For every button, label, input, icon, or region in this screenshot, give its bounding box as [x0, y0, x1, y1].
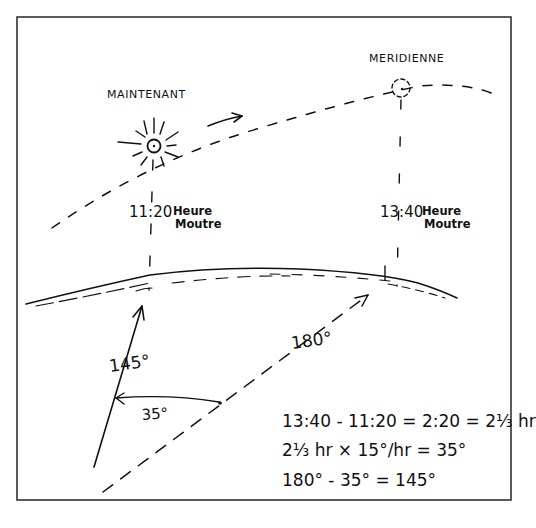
bearing-180-arrow — [103, 295, 368, 492]
sun-now-icon — [118, 118, 178, 166]
calculations-block: 13:40 - 11:20 = 2:20 = 2⅓ hr 2⅓ hr × 15°… — [282, 411, 536, 490]
calc-line-3: 180° - 35° = 145° — [282, 470, 436, 490]
bearing-145-arrow — [94, 306, 144, 467]
time-now-moutre: Moutre — [175, 217, 222, 231]
time-noon: 13:40 — [380, 203, 423, 221]
sun-bearing-diagram: MAINTENANT MERIDIENNE 11:20 Heure Moutre… — [0, 0, 536, 528]
angle-35-arc — [116, 393, 222, 405]
time-noon-moutre: Moutre — [424, 217, 471, 231]
label-35: 35° — [141, 404, 169, 424]
time-label-now: 11:20 Heure Moutre — [129, 203, 222, 231]
horizon-icon — [26, 266, 457, 306]
noon-vertical-dashed — [397, 100, 401, 286]
label-180: 180° — [290, 327, 333, 353]
time-noon-heure: Heure — [422, 204, 461, 218]
calc-line-1: 13:40 - 11:20 = 2:20 = 2⅓ hr — [282, 411, 536, 431]
time-now-heure: Heure — [173, 204, 212, 218]
calc-line-2: 2⅓ hr × 15°/hr = 35° — [282, 440, 466, 460]
label-145: 145° — [108, 350, 151, 376]
time-label-noon: 13:40 Heure Moutre — [380, 203, 471, 231]
sun-path-arrow-icon — [208, 113, 242, 126]
now-vertical-dashed — [149, 160, 153, 290]
time-now: 11:20 — [129, 203, 172, 221]
label-maintenant: MAINTENANT — [107, 88, 186, 101]
label-meridienne: MERIDIENNE — [369, 52, 444, 65]
